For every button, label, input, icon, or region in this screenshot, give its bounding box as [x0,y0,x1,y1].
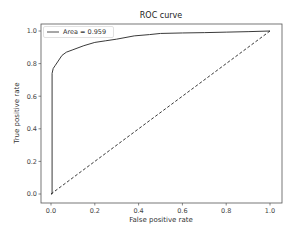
x-tick-label: 1.0 [265,207,275,215]
x-tick-label: 0.2 [90,207,100,215]
legend: Area = 0.959 [44,27,114,38]
chart-title: ROC curve [140,11,182,20]
x-axis-ticks: 0.00.20.40.60.81.0 [46,203,275,215]
plot-area [41,24,282,203]
roc-chart: ROC curve 0.00.20.40.60.81.0 0.00.20.40.… [0,0,295,237]
y-axis-label: True positive rate [13,83,21,145]
x-tick-label: 0.6 [177,207,187,215]
legend-label: Area = 0.959 [63,28,106,36]
y-tick-label: 0.2 [27,158,37,166]
x-tick-label: 0.8 [221,207,231,215]
y-tick-label: 0.0 [27,190,37,198]
y-axis-ticks: 0.00.20.40.60.81.0 [27,27,41,198]
y-tick-label: 0.4 [27,125,37,133]
x-tick-label: 0.4 [133,207,143,215]
x-tick-label: 0.0 [46,207,56,215]
y-tick-label: 1.0 [27,27,37,35]
y-tick-label: 0.8 [27,60,37,68]
x-axis-label: False positive rate [129,216,193,224]
y-tick-label: 0.6 [27,93,37,101]
